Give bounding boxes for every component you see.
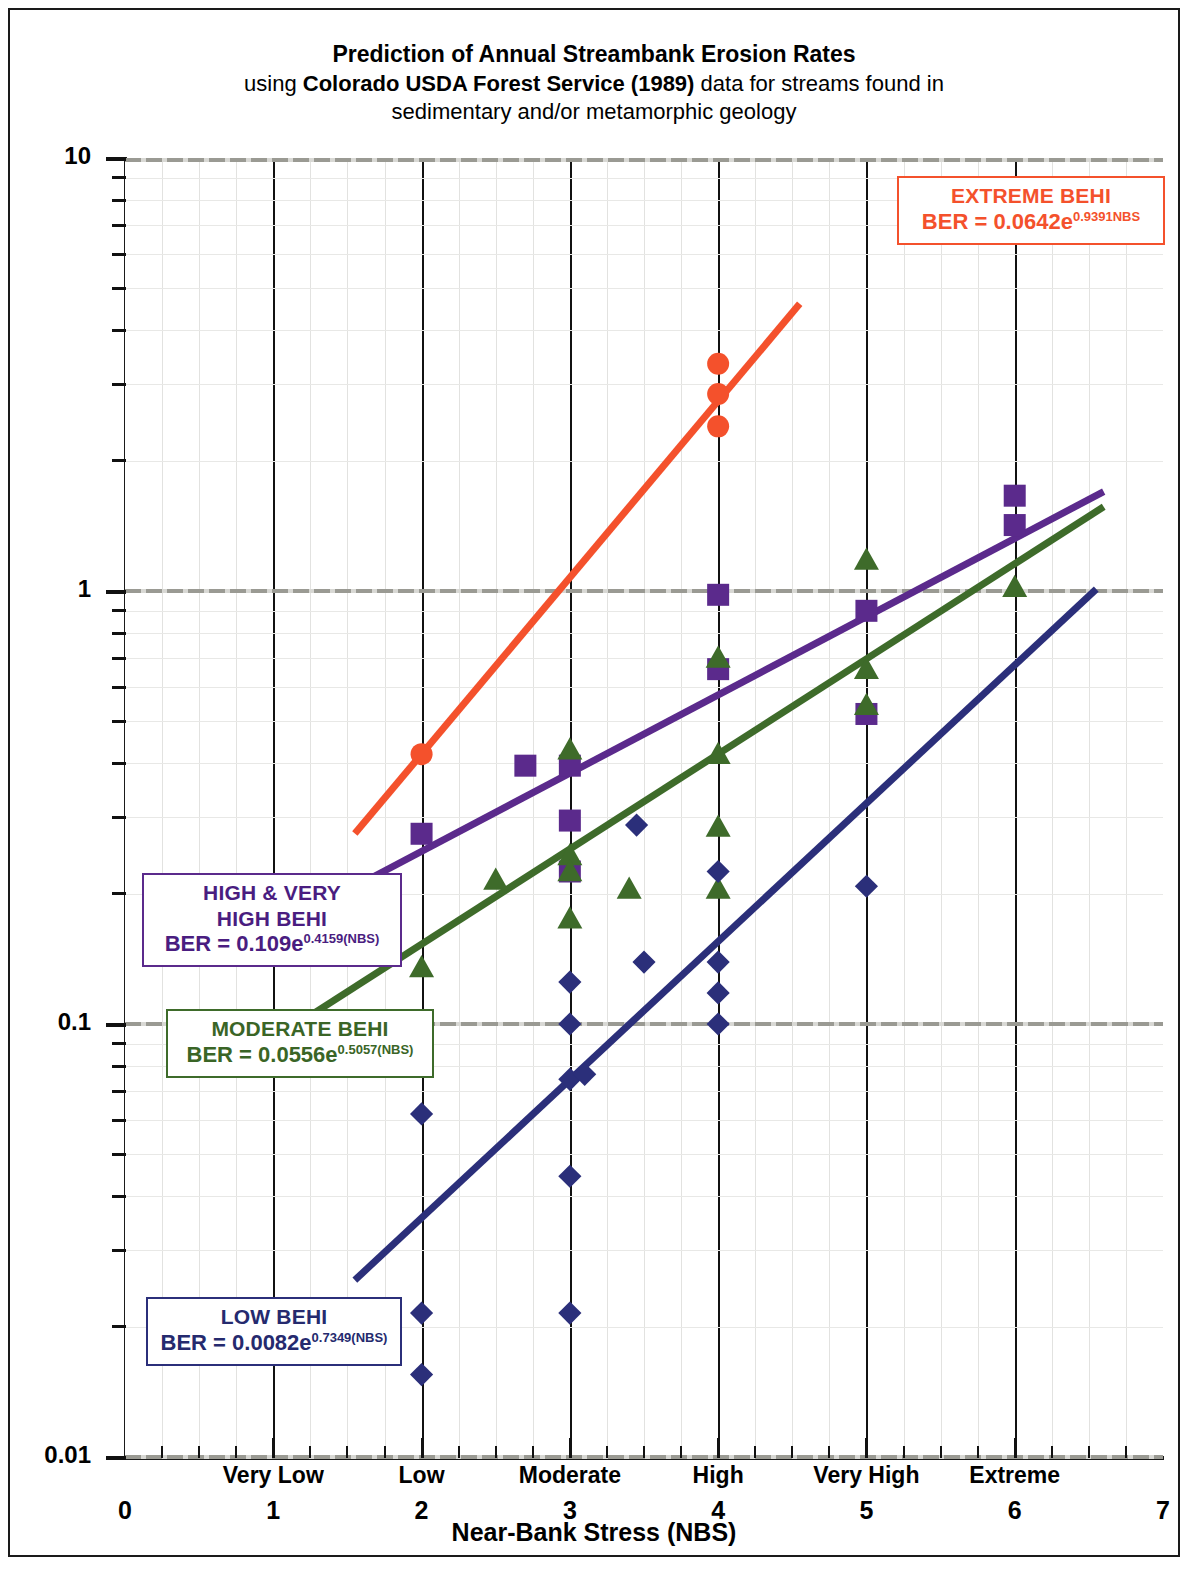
horizontal-gridline — [125, 721, 1163, 722]
horizontal-gridline — [125, 633, 1163, 634]
legend-moderate-title: MODERATE BEHI — [179, 1016, 421, 1042]
horizontal-gridline — [125, 817, 1163, 818]
title-sub-bold: Colorado USDA Forest Service (1989) — [303, 71, 695, 96]
x-axis-number-label: 2 — [415, 1496, 429, 1525]
vertical-gridline — [792, 158, 793, 1457]
x-axis-tick-major — [272, 1438, 275, 1458]
y-axis-tick-minor — [112, 224, 126, 227]
data-point-triangle — [617, 877, 642, 899]
vertical-gridline-major — [273, 158, 275, 1457]
x-axis-tick-minor — [384, 1446, 386, 1458]
y-axis-tick-label: 0.1 — [58, 1008, 91, 1036]
y-axis-tick-minor — [112, 176, 126, 179]
x-axis-tick-minor — [1051, 1446, 1053, 1458]
x-axis-tick-major — [717, 1438, 720, 1458]
legend-low-eq-exponent: 0.7349(NBS) — [312, 1330, 388, 1345]
vertical-gridline — [1089, 158, 1090, 1457]
vertical-gridline — [904, 158, 905, 1457]
x-axis-number-label: 3 — [563, 1496, 577, 1525]
horizontal-gridline — [125, 687, 1163, 688]
y-axis-tick-minor — [112, 199, 126, 202]
x-axis-tick-minor — [977, 1446, 979, 1458]
y-axis-tick-minor — [112, 1065, 126, 1068]
x-axis-category-label: High — [693, 1462, 744, 1489]
x-axis-tick-major — [569, 1438, 572, 1458]
vertical-gridline — [310, 158, 311, 1457]
vertical-gridline — [607, 158, 608, 1457]
vertical-gridline — [533, 158, 534, 1457]
vertical-gridline — [236, 158, 237, 1457]
vertical-gridline — [755, 158, 756, 1457]
vertical-gridline — [162, 158, 163, 1457]
x-axis-tick-minor — [791, 1446, 793, 1458]
vertical-gridline — [1052, 158, 1053, 1457]
legend-high-eq-main: BER = 0.109e — [165, 932, 304, 957]
vertical-gridline — [644, 158, 645, 1457]
vertical-gridline — [941, 158, 942, 1457]
vertical-gridline — [199, 158, 200, 1457]
y-axis-tick-minor — [112, 816, 126, 819]
x-axis-tick-minor — [828, 1446, 830, 1458]
title-sub-post: data for streams found in — [694, 71, 943, 96]
x-axis-tick-major — [865, 1438, 868, 1458]
x-axis-tick-minor — [903, 1446, 905, 1458]
x-axis-tick-minor — [940, 1446, 942, 1458]
y-axis-tick-minor — [112, 459, 126, 462]
legend-high-eq-exponent: 0.4159(NBS) — [303, 931, 379, 946]
horizontal-gridline-decade — [125, 589, 1163, 593]
legend-extreme-eq-exponent: 0.9391NBS — [1073, 209, 1140, 224]
y-axis-tick-major — [106, 590, 126, 594]
legend-moderate-eq-exponent: 0.5057(NBS) — [338, 1042, 414, 1057]
title-subline-1: using Colorado USDA Forest Service (1989… — [0, 70, 1188, 99]
regression-line — [288, 507, 1104, 1030]
legend-high-title-line1: HIGH & VERY — [155, 880, 389, 906]
legend-extreme-behi: EXTREME BEHI BER = 0.0642e0.9391NBS — [897, 176, 1165, 245]
x-axis-category-label: Low — [399, 1462, 445, 1489]
y-axis-tick-minor — [112, 1119, 126, 1122]
x-axis-tick-minor — [680, 1446, 682, 1458]
vertical-gridline-major — [570, 158, 572, 1457]
horizontal-gridline — [125, 1196, 1163, 1197]
y-axis-tick-minor — [112, 329, 126, 332]
x-axis-tick-minor — [1125, 1446, 1127, 1458]
horizontal-gridline-decade — [125, 158, 1163, 162]
x-axis-tick-minor — [309, 1446, 311, 1458]
chart-title-block: Prediction of Annual Streambank Erosion … — [0, 40, 1188, 127]
horizontal-gridline — [125, 763, 1163, 764]
x-axis-category-label: Very High — [813, 1462, 919, 1489]
y-axis-tick-minor — [112, 1195, 126, 1198]
x-axis-category-label: Very Low — [223, 1462, 324, 1489]
legend-moderate-eq-main: BER = 0.0556e — [187, 1042, 338, 1067]
y-axis-tick-major — [106, 1023, 126, 1027]
legend-low-behi: LOW BEHI BER = 0.0082e0.7349(NBS) — [146, 1297, 402, 1366]
y-axis-tick-minor — [112, 287, 126, 290]
x-axis-category-label: Extreme — [969, 1462, 1060, 1489]
y-axis-tick-minor — [112, 1090, 126, 1093]
legend-extreme-title: EXTREME BEHI — [910, 183, 1152, 209]
x-axis-number-label: 5 — [859, 1496, 873, 1525]
horizontal-gridline — [125, 288, 1163, 289]
x-axis-number-label: 1 — [266, 1496, 280, 1525]
horizontal-gridline — [125, 1091, 1163, 1092]
vertical-gridline — [347, 158, 348, 1457]
y-axis-tick-minor — [112, 720, 126, 723]
legend-high-behi: HIGH & VERY HIGH BEHI BER = 0.109e0.4159… — [142, 873, 402, 967]
x-axis-number-label: 0 — [118, 1496, 132, 1525]
vertical-gridline — [1126, 158, 1127, 1457]
y-axis-tick-minor — [112, 657, 126, 660]
y-axis-tick-major — [106, 1456, 126, 1460]
x-axis-number-label: 7 — [1156, 1496, 1170, 1525]
y-axis-tick-minor — [112, 383, 126, 386]
y-axis-tick-major — [106, 157, 126, 161]
chart-page: Prediction of Annual Streambank Erosion … — [0, 0, 1188, 1588]
vertical-gridline-major — [718, 158, 720, 1457]
page-title: Prediction of Annual Streambank Erosion … — [0, 40, 1188, 70]
x-axis-tick-minor — [458, 1446, 460, 1458]
x-axis-number-label: 4 — [711, 1496, 725, 1525]
y-axis-tick-label: 10 — [64, 142, 91, 170]
y-axis-tick-minor — [112, 253, 126, 256]
y-axis-tick-minor — [112, 762, 126, 765]
y-axis-tick-minor — [112, 1153, 126, 1156]
horizontal-gridline — [125, 384, 1163, 385]
x-axis-tick-minor — [754, 1446, 756, 1458]
